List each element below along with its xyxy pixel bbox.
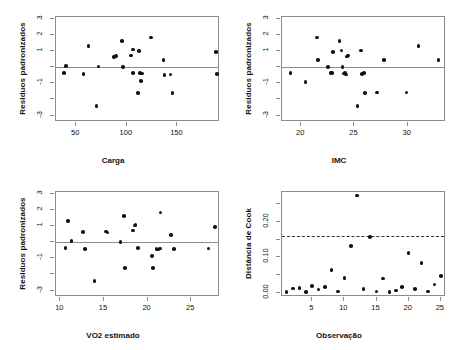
data-point xyxy=(298,286,302,290)
data-point xyxy=(81,230,85,234)
data-point xyxy=(439,274,443,278)
data-point xyxy=(368,235,372,239)
data-point xyxy=(159,211,163,215)
y-tick xyxy=(276,82,280,83)
x-tick-label: 10 xyxy=(328,303,358,312)
x-tick xyxy=(190,297,191,301)
x-tick xyxy=(176,122,177,126)
y-tick xyxy=(50,18,54,19)
x-tick-label: 20 xyxy=(132,303,162,312)
x-tick-label: 15 xyxy=(88,303,118,312)
y-tick xyxy=(276,203,280,204)
y-tick xyxy=(50,98,54,99)
reference-line-bottom-right xyxy=(282,236,444,237)
data-point xyxy=(64,64,68,68)
y-tick xyxy=(276,18,280,19)
data-point xyxy=(106,231,110,235)
data-point xyxy=(394,289,398,293)
data-point xyxy=(114,54,118,58)
data-point xyxy=(83,247,87,251)
panel-top-left: 50100150321-1-3CargaResiduos padronizado… xyxy=(0,0,226,175)
data-point xyxy=(356,104,360,108)
data-point xyxy=(426,290,430,294)
x-tick xyxy=(59,297,60,301)
plot-area-top-left xyxy=(55,16,219,121)
data-point xyxy=(129,54,133,58)
data-point xyxy=(363,91,367,95)
x-tick-label: 25 xyxy=(175,303,205,312)
data-point xyxy=(316,58,320,62)
data-point xyxy=(304,290,308,294)
data-point xyxy=(93,279,97,283)
data-point xyxy=(131,229,135,233)
y-tick-label: 1 xyxy=(35,39,44,59)
data-point xyxy=(82,72,86,76)
data-point xyxy=(64,246,68,250)
y-tick xyxy=(276,239,280,240)
y-tick xyxy=(276,221,280,222)
x-tick xyxy=(376,297,377,301)
x-tick xyxy=(147,297,148,301)
y-tick xyxy=(50,34,54,35)
data-point xyxy=(304,80,308,84)
plot-area-bottom-left xyxy=(55,191,219,296)
x-tick-label: 5 xyxy=(296,303,326,312)
y-tick xyxy=(276,274,280,275)
y-tick xyxy=(50,209,54,210)
data-point xyxy=(375,91,379,95)
data-point xyxy=(349,244,353,248)
data-point xyxy=(326,65,330,69)
data-point xyxy=(433,283,437,287)
data-point xyxy=(120,39,124,43)
y-tick xyxy=(50,241,54,242)
reference-line-top-left xyxy=(56,67,218,68)
x-tick xyxy=(353,122,354,126)
x-axis-label-bottom-left: VO2 estimado xyxy=(0,331,226,340)
y-tick xyxy=(276,66,280,67)
data-point xyxy=(355,194,359,198)
y-tick xyxy=(276,292,280,293)
data-point xyxy=(317,288,321,292)
x-tick-label: 150 xyxy=(161,128,191,137)
y-tick xyxy=(276,50,280,51)
y-tick xyxy=(50,290,54,291)
x-axis-label-bottom-right: Observação xyxy=(226,331,452,340)
y-tick xyxy=(50,257,54,258)
x-tick xyxy=(407,122,408,126)
y-tick-label: -1 xyxy=(261,72,270,92)
data-point xyxy=(207,247,211,251)
y-axis-label-bottom-right: Distância de Cook xyxy=(244,191,253,296)
x-tick-label: 15 xyxy=(361,303,391,312)
data-point xyxy=(150,254,154,258)
data-point xyxy=(131,48,135,52)
data-point xyxy=(214,50,218,54)
plot-area-bottom-right xyxy=(281,191,445,296)
y-axis-label-top-left: Residuos padronizados xyxy=(18,16,27,121)
x-tick-label: 10 xyxy=(44,303,74,312)
y-tick-label: 0.10 xyxy=(261,246,270,266)
data-point xyxy=(341,65,345,69)
reference-line-top-right xyxy=(282,67,444,68)
data-point xyxy=(123,266,127,270)
y-axis-label-top-right: Residuos padronizados xyxy=(244,16,253,121)
y-tick xyxy=(276,115,280,116)
data-point xyxy=(331,50,335,54)
data-point xyxy=(381,277,385,281)
x-tick xyxy=(408,297,409,301)
reference-line-bottom-left xyxy=(56,242,218,243)
y-tick-label: -3 xyxy=(35,104,44,124)
y-tick xyxy=(50,115,54,116)
panel-top-right: 202530321-1-3IMCResiduos padronizados xyxy=(226,0,452,175)
y-tick-label: -3 xyxy=(261,104,270,124)
data-point xyxy=(291,287,295,291)
y-tick xyxy=(50,193,54,194)
data-point xyxy=(382,58,386,62)
diagnostic-plots-figure: 50100150321-1-3CargaResiduos padronizado… xyxy=(0,0,453,350)
data-point xyxy=(171,91,175,95)
y-tick-label: -3 xyxy=(35,279,44,299)
x-tick-label: 20 xyxy=(285,128,315,137)
data-point xyxy=(158,247,162,251)
x-tick xyxy=(126,122,127,126)
y-tick-label: 0.20 xyxy=(261,211,270,231)
data-point xyxy=(437,58,441,62)
